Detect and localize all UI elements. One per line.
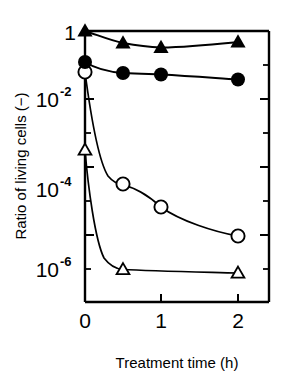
y-tick-label-1-mantissa: 10 [36,88,59,111]
y-tick-label-1-exponent: -2 [60,84,72,99]
y-tick-label-3-exponent: -6 [60,254,72,269]
marker-open-circle [154,200,167,213]
marker-filled-circle [154,68,168,82]
y-tick-labels: 1 10 -2 10 -4 10 -6 [36,21,76,281]
y-tick-label-2-exponent: -4 [60,174,72,189]
marker-filled-circle [116,66,130,80]
y-tick-label-2-mantissa: 10 [36,178,59,201]
y-tick-label-3: 10 -6 [36,254,72,281]
series-open-circle [78,65,244,242]
marker-filled-triangle [230,34,245,47]
y-tick-label-0: 1 [64,21,76,44]
marker-open-circle [231,229,244,242]
series-filled-triangle [77,23,245,53]
marker-filled-circle [231,73,245,87]
y-axis-title: Ratio of living cells (−) [12,92,29,239]
x-tick-label-2: 2 [232,309,244,332]
x-tick-label-0: 0 [79,309,91,332]
chart-page: 1 10 -2 10 -4 10 -6 0 1 2 Ratio of li [0,0,285,389]
y-axis-major-ticks-right [260,99,269,235]
marker-open-triangle [79,144,92,155]
x-tick-label-1: 1 [155,309,167,332]
y-tick-label-3-mantissa: 10 [36,258,59,281]
marker-filled-circle [78,55,92,69]
y-tick-label-1: 10 -2 [36,84,72,111]
x-tick-labels: 0 1 2 [79,309,244,332]
marker-open-circle [116,177,129,190]
series-filled-circle [78,55,245,87]
y-tick-label-2: 10 -4 [36,174,73,201]
living-cells-ratio-chart: 1 10 -2 10 -4 10 -6 0 1 2 Ratio of li [0,0,285,389]
x-axis-title: Treatment time (h) [116,354,239,371]
